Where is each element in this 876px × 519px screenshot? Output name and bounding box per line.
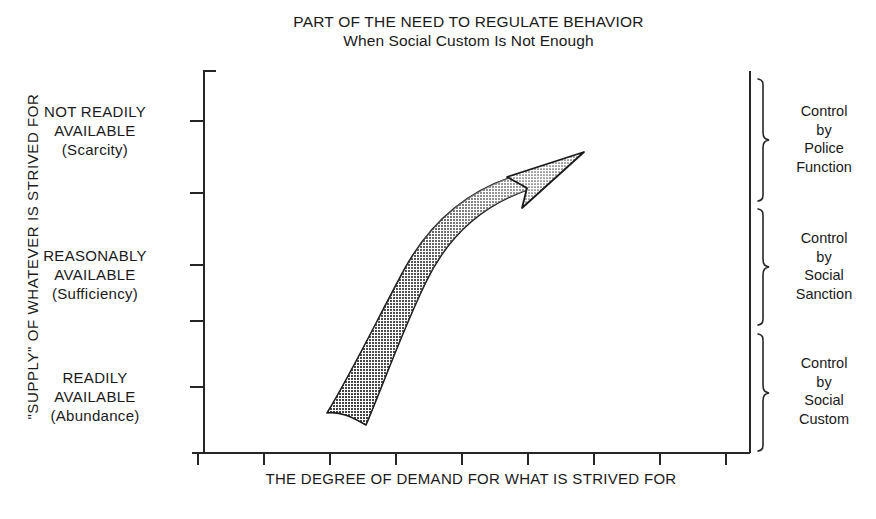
chart-title: PART OF THE NEED TO REGULATE BEHAVIOR (196, 12, 741, 31)
right-label-social-custom: Control by Social Custom (776, 354, 872, 428)
diagram-canvas: PART OF THE NEED TO REGULATE BEHAVIOR Wh… (0, 0, 876, 519)
right-label-line-2: by (776, 248, 872, 267)
y-category-line-1: READILY (5, 368, 185, 387)
right-label-line-4: Sanction (776, 285, 872, 304)
right-label-police-function: Control by Police Function (776, 102, 872, 176)
x-axis-tick (263, 454, 265, 465)
y-axis-tick (190, 120, 203, 122)
y-axis-tick (190, 320, 203, 322)
x-axis-caption: THE DEGREE OF DEMAND FOR WHAT IS STRIVED… (192, 470, 750, 487)
right-label-line-2: by (776, 121, 872, 140)
x-axis-tick (197, 454, 199, 465)
x-axis-tick (461, 454, 463, 465)
arrow-shaft (327, 175, 527, 425)
y-category-line-2: AVAILABLE (5, 265, 185, 284)
right-label-line-4: Custom (776, 410, 872, 429)
right-label-line-1: Control (776, 354, 872, 373)
x-axis-tick (725, 454, 727, 465)
right-label-line-1: Control (776, 229, 872, 248)
right-axis-line (749, 71, 751, 453)
x-axis-line (192, 452, 750, 454)
right-label-social-sanction: Control by Social Sanction (776, 229, 872, 303)
y-axis-tick (190, 386, 203, 388)
right-label-line-2: by (776, 373, 872, 392)
title-block: PART OF THE NEED TO REGULATE BEHAVIOR Wh… (196, 12, 741, 50)
right-label-line-4: Function (776, 158, 872, 177)
brace-social-custom (757, 333, 770, 452)
y-axis-line (203, 70, 205, 454)
right-label-line-1: Control (776, 102, 872, 121)
y-category-line-3: (Sufficiency) (5, 284, 185, 303)
y-axis-tick (190, 264, 203, 266)
x-axis-tick (593, 454, 595, 465)
brace-police-function (757, 78, 770, 202)
y-category-sufficiency: REASONABLY AVAILABLE (Sufficiency) (5, 246, 185, 303)
y-axis-tick (190, 192, 203, 194)
chart-subtitle: When Social Custom Is Not Enough (196, 31, 741, 50)
right-label-line-3: Police (776, 139, 872, 158)
y-category-line-1: REASONABLY (5, 246, 185, 265)
x-axis-tick (527, 454, 529, 465)
y-category-line-2: AVAILABLE (5, 121, 185, 140)
y-category-scarcity: NOT READILY AVAILABLE (Scarcity) (5, 102, 185, 159)
right-label-line-3: Social (776, 391, 872, 410)
arrow-head (507, 152, 584, 208)
y-category-line-3: (Abundance) (5, 406, 185, 425)
right-label-line-3: Social (776, 266, 872, 285)
y-axis-top-cap (203, 70, 216, 72)
x-axis-tick (395, 454, 397, 465)
y-category-line-2: AVAILABLE (5, 387, 185, 406)
brace-social-sanction (757, 208, 770, 326)
x-axis-tick (329, 454, 331, 465)
y-category-abundance: READILY AVAILABLE (Abundance) (5, 368, 185, 425)
y-category-line-3: (Scarcity) (5, 140, 185, 159)
x-axis-tick (659, 454, 661, 465)
y-category-line-1: NOT READILY (5, 102, 185, 121)
